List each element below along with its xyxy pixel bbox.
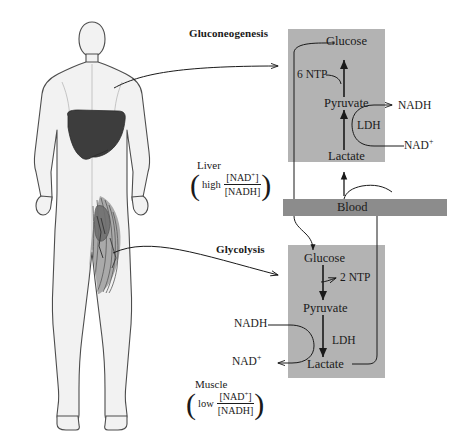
right-paren: ) [254,392,264,415]
liver-ratio-fraction: [NAD+] [NADH] [224,172,262,197]
muscle-nad-plus-superscript: + [257,353,261,362]
heading-glycolysis: Glycolysis [216,244,265,255]
liver-annotation-ratio: ( high [NAD+] [NADH] ) [190,172,271,197]
diagram-canvas [0,0,454,438]
muscle-lactate-label: Lactate [307,358,344,371]
muscle-nadh-label: NADH [234,318,267,330]
liver-nadh-label: NADH [398,100,431,112]
muscle-annotation-ratio: ( low [NAD+] [NADH] ) [186,391,264,416]
liver-nad-plus-superscript: + [429,137,433,146]
liver-nad-plus-text: NAD [404,139,429,151]
left-paren: ( [190,173,200,196]
liver-lactate-label: Lactate [328,150,365,163]
liver-pyruvate-label: Pyruvate [324,97,368,110]
muscle-ratio-denominator: [NADH] [217,404,255,416]
muscle-ratio-qualifier: low [196,398,217,409]
liver-nad-plus-label: NAD+ [404,140,433,152]
muscle-ldh-label: LDH [332,335,356,347]
liver-ldh-label: LDH [357,120,381,132]
muscle-glucose-label: Glucose [304,252,345,265]
cori-cycle-figure: Gluconeogenesis Glycolysis Blood Glucose… [0,0,454,438]
liver-ratio-qualifier: high [200,179,224,190]
muscle-pyruvate-label: Pyruvate [303,302,347,315]
liver-ratio-denominator: [NADH] [224,185,262,197]
muscle-nad-plus-label: NAD+ [232,356,261,368]
muscle-annotation-organ: Muscle [195,379,227,390]
muscle-ratio-numerator: [NAD+] [218,391,252,403]
muscle-nad-plus-text: NAD [232,355,257,367]
liver-annotation-organ: Liver [197,160,221,171]
muscle-ratio-fraction: [NAD+] [NADH] [217,391,255,416]
heading-gluconeogenesis: Gluconeogenesis [189,28,268,39]
liver-ratio-numerator: [NAD+] [225,172,259,184]
liver-ntp-label: 6 NTP [297,69,327,81]
left-paren: ( [186,392,196,415]
human-body-silhouette [34,22,149,430]
liver-glucose-label: Glucose [326,35,367,48]
muscle-ntp-label: 2 NTP [340,272,370,284]
blood-label: Blood [337,201,368,214]
right-paren: ) [261,173,271,196]
